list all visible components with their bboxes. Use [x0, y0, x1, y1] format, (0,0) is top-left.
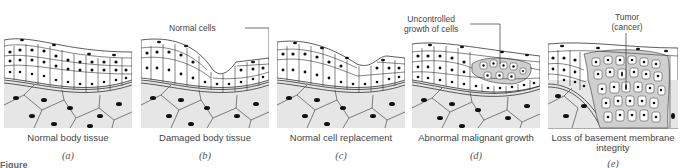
panel-a: Normal body tissue (a)	[4, 0, 132, 168]
callout-line-1: Uncontrolled	[404, 14, 458, 24]
caption-b: Damaged body tissue	[141, 133, 269, 143]
letter-d: (d)	[412, 150, 540, 161]
figure-label-fragment: Figure	[0, 160, 28, 168]
callout-tumor: Tumor (cancer)	[602, 12, 652, 32]
panel-d: Uncontrolled growth of cells Abnormal ma…	[412, 0, 540, 168]
caption-d: Abnormal malignant growth	[412, 133, 540, 143]
caption-a: Normal body tissue	[4, 133, 132, 143]
letter-b: (b)	[141, 150, 269, 161]
callout-uncontrolled-growth: Uncontrolled growth of cells	[404, 14, 458, 34]
caption-e: Loss of basement membrane integrity	[548, 133, 678, 153]
callout-normal-cells: Normal cells	[169, 23, 216, 33]
letter-e: (e)	[548, 158, 678, 168]
panel-e: Tumor (cancer) Loss of basement membrane…	[548, 0, 678, 168]
cell-replacement-illustration	[277, 0, 405, 132]
callout-line-2: growth of cells	[404, 24, 458, 34]
callout-line-1: Tumor	[602, 12, 652, 22]
caption-c: Normal cell replacement	[277, 133, 405, 143]
panel-c: Normal cell replacement (c)	[277, 0, 405, 168]
caption-e-line-2: integrity	[548, 143, 678, 153]
callout-line-2: (cancer)	[602, 22, 652, 32]
normal-tissue-illustration	[4, 0, 132, 132]
letter-c: (c)	[277, 150, 405, 161]
damaged-tissue-illustration	[141, 0, 269, 132]
panel-b: Normal cells Damaged body tissue (b)	[141, 0, 269, 168]
